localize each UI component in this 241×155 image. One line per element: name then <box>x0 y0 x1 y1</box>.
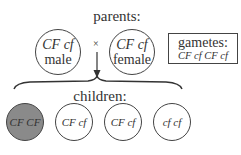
child-genotype: CF cf <box>62 116 87 128</box>
child-genotype: cf cf <box>163 116 182 128</box>
child-circle-3: CF cf <box>104 103 142 141</box>
child-circle-2: CF cf <box>55 103 93 141</box>
child-circle-4: cf cf <box>153 103 191 141</box>
down-arrow-icon <box>94 52 101 78</box>
child-genotype: CF cf <box>111 116 136 128</box>
child-genotype: CF CF <box>10 116 41 128</box>
child-circle-1: CF CF <box>6 103 44 141</box>
